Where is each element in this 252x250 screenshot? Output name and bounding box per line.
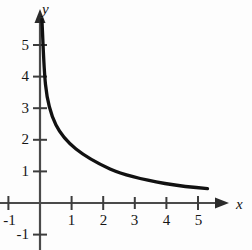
x-tick-label-3: 3	[128, 213, 141, 228]
x-axis	[0, 198, 229, 209]
x-tick-label-neg1: -1	[0, 213, 19, 228]
y-tick-label-2: 2	[17, 132, 29, 147]
y-tick-label-1: 1	[17, 164, 29, 179]
x-tick-label-5: 5	[192, 213, 205, 228]
curve-path	[42, 20, 208, 189]
coordinate-plot	[0, 0, 252, 250]
y-tick-label-neg1: -1	[10, 227, 29, 242]
x-tick-label-1: 1	[65, 213, 78, 228]
y-tick-label-5: 5	[17, 38, 29, 53]
x-axis-label: x	[236, 197, 243, 212]
y-axis-label: y	[42, 2, 49, 17]
graph-figure: 5 4 3 2 1 -1 -1 1 2 3 4 5 y x	[0, 0, 252, 250]
y-tick-label-3: 3	[17, 101, 29, 116]
y-tick-label-4: 4	[17, 69, 29, 84]
x-tick-label-4: 4	[160, 213, 173, 228]
x-tick-label-2: 2	[97, 213, 110, 228]
